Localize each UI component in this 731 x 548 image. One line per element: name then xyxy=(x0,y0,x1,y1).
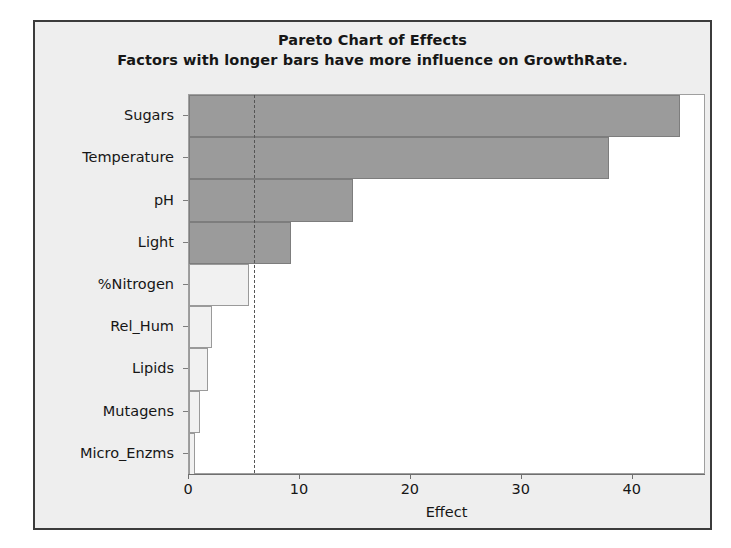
y-axis-label-temperature: Temperature xyxy=(82,149,174,165)
bar-row xyxy=(189,264,704,306)
x-axis-tick-label: 30 xyxy=(512,481,530,497)
x-axis-tick-label: 20 xyxy=(401,481,419,497)
bar-row xyxy=(189,137,704,179)
x-axis-tick xyxy=(299,474,300,479)
x-axis-tick xyxy=(188,474,189,479)
x-axis-line xyxy=(188,474,705,475)
y-axis-tick xyxy=(183,411,188,412)
y-axis-tick xyxy=(183,115,188,116)
y-axis-tick xyxy=(183,368,188,369)
bar-row xyxy=(189,179,704,221)
bar-mutagens xyxy=(189,391,200,433)
y-axis-tick xyxy=(183,200,188,201)
y-axis-tick xyxy=(183,242,188,243)
pareto-chart-panel: Pareto Chart of Effects Factors with lon… xyxy=(33,20,712,530)
y-axis-tick xyxy=(183,326,188,327)
x-axis-tick xyxy=(410,474,411,479)
bar-micro-enzms xyxy=(189,433,195,475)
critical-value-reference-line xyxy=(254,95,255,473)
x-axis-tick-label: 40 xyxy=(623,481,641,497)
x-axis-tick xyxy=(521,474,522,479)
y-axis-label-micro-enzms: Micro_Enzms xyxy=(80,445,174,461)
bar-row xyxy=(189,433,704,475)
y-axis-label-ph: pH xyxy=(154,192,174,208)
y-axis-label-mutagens: Mutagens xyxy=(103,403,174,419)
bar-sugars xyxy=(189,95,680,137)
chart-title-block: Pareto Chart of Effects Factors with lon… xyxy=(35,31,710,70)
x-axis-tick xyxy=(632,474,633,479)
x-axis-title: Effect xyxy=(188,504,705,520)
y-axis-tick xyxy=(183,284,188,285)
chart-subtitle: Factors with longer bars have more influ… xyxy=(35,50,710,70)
y-axis-label-sugars: Sugars xyxy=(124,107,174,123)
bar-nitrogen xyxy=(189,264,249,306)
y-axis-label-lipids: Lipids xyxy=(132,360,174,376)
x-axis-tick-label: 10 xyxy=(290,481,308,497)
x-axis-tick-label: 0 xyxy=(183,481,192,497)
bar-row xyxy=(189,222,704,264)
y-axis-category-labels: SugarsTemperaturepHLight%NitrogenRel_Hum… xyxy=(35,94,182,474)
y-axis-label-nitrogen: %Nitrogen xyxy=(98,276,174,292)
y-axis-label-light: Light xyxy=(138,234,174,250)
y-axis-label-rel-hum: Rel_Hum xyxy=(110,318,174,334)
bar-row xyxy=(189,348,704,390)
bars-layer xyxy=(189,95,704,473)
bar-row xyxy=(189,95,704,137)
page-title: Pareto Chart of Effects xyxy=(35,31,710,50)
bar-row xyxy=(189,391,704,433)
bar-row xyxy=(189,306,704,348)
bar-light xyxy=(189,222,291,264)
bar-temperature xyxy=(189,137,609,179)
bar-lipids xyxy=(189,348,208,390)
bar-rel-hum xyxy=(189,306,212,348)
plot-area xyxy=(188,94,705,474)
y-axis-tick xyxy=(183,453,188,454)
y-axis-tick xyxy=(183,157,188,158)
bar-ph xyxy=(189,179,353,221)
